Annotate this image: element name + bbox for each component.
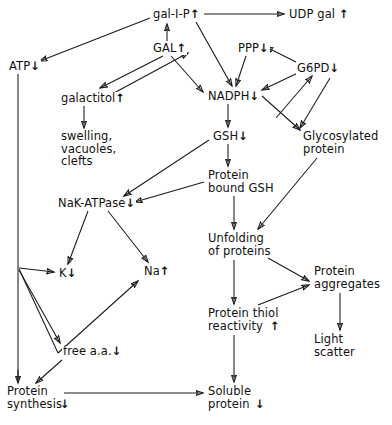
- node-gal: GAL↑: [152, 42, 187, 55]
- node-ppp-change: ↓: [259, 41, 269, 55]
- node-nak-atpase-change: ↓: [125, 196, 135, 210]
- node-ppp-label: PPP: [238, 41, 259, 55]
- node-gal1p-change: ↑: [190, 7, 200, 21]
- node-na-change: ↑: [160, 264, 170, 278]
- node-gsh-change: ↓: [238, 129, 248, 143]
- node-udpgal: UDP gal ↑: [288, 8, 350, 21]
- node-protein-thiol-reactivity-change: ↑: [270, 320, 280, 333]
- node-gsh: GSH↓: [212, 130, 249, 143]
- node-protein-synthesis: Protein synthesis↓: [6, 385, 63, 410]
- node-protein-aggregates: Protein aggregates: [313, 265, 381, 290]
- node-light-scatter: Light scatter: [313, 333, 356, 358]
- node-protein-thiol-reactivity: Protein thiol reactivity ↑: [207, 307, 280, 332]
- node-na-label: Na: [144, 264, 160, 278]
- node-galactitol-change: ↑: [115, 91, 125, 105]
- node-free-aa: free a.a.↓: [62, 345, 122, 358]
- node-layer: gal-I-P↑ UDP gal ↑ GAL↑ PPP↓ ATP↓ G6PD↓ …: [0, 0, 392, 425]
- node-soluble-protein-label: Soluble protein: [208, 385, 253, 410]
- node-glycosylated-protein: Glycosylated protein: [302, 130, 379, 155]
- node-protein-bound-gsh-label: Protein bound GSH: [208, 169, 274, 194]
- node-nak-atpase-label: NaK-ATPase: [58, 196, 125, 210]
- node-atp: ATP↓: [8, 60, 41, 73]
- node-protein-bound-gsh: Protein bound GSH: [207, 169, 275, 194]
- node-protein-synthesis-label: Protein synthesis: [7, 385, 62, 410]
- pathway-diagram: gal-I-P↑ UDP gal ↑ GAL↑ PPP↓ ATP↓ G6PD↓ …: [0, 0, 392, 425]
- node-free-aa-change: ↓: [112, 344, 122, 358]
- node-soluble-protein-change: ↓: [255, 398, 265, 411]
- node-protein-thiol-reactivity-label: Protein thiol reactivity: [208, 307, 279, 332]
- node-gal1p: gal-I-P↑: [152, 8, 201, 21]
- node-nak-atpase: NaK-ATPase↓: [57, 197, 136, 210]
- node-soluble-protein: Soluble protein ↓: [207, 385, 254, 410]
- node-nadph: NADPH↓: [207, 90, 260, 103]
- node-galactitol-label: galactitol: [61, 91, 115, 105]
- node-udpgal-label: UDP gal: [289, 7, 339, 21]
- node-swelling: swelling, vacuoles, clefts: [60, 130, 117, 168]
- node-gsh-label: GSH: [213, 129, 238, 143]
- node-ppp: PPP↓: [237, 42, 270, 55]
- node-protein-synthesis-change: ↓: [60, 398, 70, 411]
- node-k-label: K: [59, 266, 67, 280]
- node-g6pd: G6PD↓: [296, 62, 340, 75]
- node-udpgal-change: ↑: [339, 7, 349, 21]
- node-gal-label: GAL: [153, 41, 177, 55]
- node-nadph-change: ↓: [249, 89, 259, 103]
- node-nadph-label: NADPH: [208, 89, 249, 103]
- node-g6pd-label: G6PD: [297, 61, 329, 75]
- node-atp-label: ATP: [9, 59, 30, 73]
- node-k-change: ↓: [67, 266, 77, 280]
- node-free-aa-label: free a.a.: [63, 344, 112, 358]
- node-g6pd-change: ↓: [329, 61, 339, 75]
- node-glycosylated-protein-label: Glycosylated protein: [303, 130, 378, 155]
- node-swelling-label: swelling, vacuoles, clefts: [61, 130, 116, 168]
- node-k: K↓: [58, 267, 77, 280]
- node-unfolding-of-proteins-label: Unfolding of proteins: [208, 232, 271, 257]
- node-unfolding-of-proteins: Unfolding of proteins: [207, 232, 272, 257]
- node-gal-change: ↑: [177, 41, 187, 55]
- node-light-scatter-label: Light scatter: [314, 333, 355, 358]
- node-gal1p-label: gal-I-P: [153, 7, 190, 21]
- node-atp-change: ↓: [30, 59, 40, 73]
- node-protein-aggregates-label: Protein aggregates: [314, 265, 380, 290]
- node-galactitol: galactitol↑: [60, 92, 126, 105]
- node-na: Na↑: [143, 265, 171, 278]
